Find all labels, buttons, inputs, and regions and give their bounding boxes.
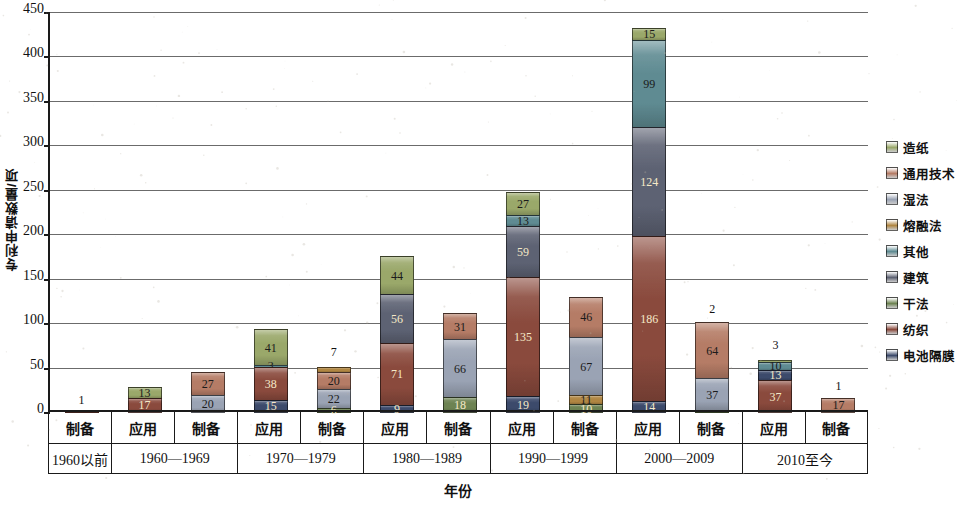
y-axis-tickmark bbox=[44, 279, 50, 281]
x-axis-subcategory-label: 制备 bbox=[300, 412, 363, 443]
bar-stack[interactable]: 159912418614 bbox=[632, 28, 666, 412]
chart-legend: 造纸通用技术湿法熔融法其他建筑干法纺织电池隔膜 bbox=[886, 134, 959, 368]
legend-item[interactable]: 电池隔膜 bbox=[886, 342, 959, 368]
segment-value-label: 186 bbox=[633, 313, 665, 325]
bar-segment[interactable]: 124 bbox=[632, 127, 666, 237]
bar-stack[interactable]: 46671110 bbox=[569, 297, 603, 412]
x-axis-title: 年份 bbox=[48, 480, 868, 500]
bar-top-label: 2 bbox=[685, 302, 739, 317]
bar-stack[interactable]: 31013373 bbox=[758, 360, 792, 412]
segment-value-label: 59 bbox=[507, 246, 539, 258]
bar-segment[interactable]: 135 bbox=[506, 277, 540, 397]
y-axis-tickmark bbox=[44, 323, 50, 325]
x-axis-subcategory-label: 制备 bbox=[553, 412, 616, 443]
bar-top-label: 1 bbox=[811, 379, 865, 394]
bar-segment[interactable]: 15 bbox=[632, 28, 666, 41]
bar-segment[interactable]: 37 bbox=[758, 380, 792, 413]
segment-value-label: 37 bbox=[759, 391, 791, 403]
bar-stack[interactable]: 4133815 bbox=[254, 329, 288, 412]
bar-segment[interactable]: 186 bbox=[632, 236, 666, 401]
x-axis-subcategory-label: 应用 bbox=[490, 412, 553, 443]
bar-stack[interactable]: 643722 bbox=[695, 322, 729, 412]
legend-item[interactable]: 干法 bbox=[886, 290, 959, 316]
segment-value-label: 31 bbox=[444, 321, 476, 333]
gridline bbox=[50, 190, 868, 191]
y-axis-tickmark bbox=[44, 12, 50, 14]
bar-stack[interactable]: 27135913519 bbox=[506, 192, 540, 412]
bar-segment[interactable]: 99 bbox=[632, 40, 666, 128]
legend-label: 湿法 bbox=[903, 190, 929, 209]
x-axis-group-label: 1960—1969 bbox=[111, 443, 237, 474]
bar-segment[interactable]: 44 bbox=[380, 256, 414, 295]
y-axis-tick-label: 400 bbox=[4, 48, 44, 58]
legend-swatch-icon bbox=[886, 141, 898, 153]
legend-item[interactable]: 其他 bbox=[886, 238, 959, 264]
legend-swatch-icon bbox=[886, 167, 898, 179]
bar-segment[interactable]: 27 bbox=[506, 192, 540, 216]
bar-segment[interactable]: 37 bbox=[695, 378, 729, 411]
bar-segment[interactable]: 27 bbox=[191, 372, 225, 396]
bar-segment[interactable]: 56 bbox=[380, 294, 414, 344]
x-axis-subcategory-label: 应用 bbox=[742, 412, 805, 443]
legend-item[interactable]: 通用技术 bbox=[886, 160, 959, 186]
legend-item[interactable]: 纺织 bbox=[886, 316, 959, 342]
x-axis-subcategory-label: 制备 bbox=[174, 412, 237, 443]
legend-swatch-icon bbox=[886, 323, 898, 335]
legend-label: 熔融法 bbox=[903, 216, 942, 235]
bar-stack[interactable]: 2720 bbox=[191, 372, 225, 412]
bar-top-label: 1 bbox=[55, 393, 109, 408]
bar-segment[interactable]: 66 bbox=[443, 339, 477, 398]
bar-segment[interactable]: 64 bbox=[695, 322, 729, 379]
gridline bbox=[50, 12, 868, 13]
x-axis-group-label: 2000—2009 bbox=[616, 443, 742, 474]
legend-item[interactable]: 熔融法 bbox=[886, 212, 959, 238]
x-axis-subcategory-label: 制备 bbox=[805, 412, 868, 443]
legend-item[interactable]: 湿法 bbox=[886, 186, 959, 212]
bar-segment[interactable]: 31 bbox=[443, 313, 477, 341]
x-axis-subcategory-label: 制备 bbox=[679, 412, 742, 443]
bar-segment[interactable]: 59 bbox=[506, 226, 540, 278]
x-axis-subcategory-label: 应用 bbox=[237, 412, 300, 443]
bar-segment[interactable]: 20 bbox=[317, 372, 351, 390]
bar-top-label: 7 bbox=[307, 345, 361, 360]
bar-stack[interactable]: 4456719 bbox=[380, 256, 414, 412]
y-axis-tick-label: 100 bbox=[4, 315, 44, 325]
bar-segment[interactable]: 67 bbox=[569, 337, 603, 397]
gridline bbox=[50, 234, 868, 235]
x-axis-group-label: 1970—1979 bbox=[237, 443, 363, 474]
legend-item[interactable]: 建筑 bbox=[886, 264, 959, 290]
x-axis-subcategory-label: 应用 bbox=[616, 412, 679, 443]
x-axis-subcategory-label: 制备 bbox=[426, 412, 489, 443]
legend-swatch-icon bbox=[886, 297, 898, 309]
segment-value-label: 71 bbox=[381, 368, 413, 380]
x-axis-group-label: 1990—1999 bbox=[490, 443, 616, 474]
gridline bbox=[50, 56, 868, 57]
y-axis-tick-label: 300 bbox=[4, 137, 44, 147]
y-axis-tickmark bbox=[44, 56, 50, 58]
segment-value-label: 67 bbox=[570, 361, 602, 373]
bar-segment[interactable]: 71 bbox=[380, 343, 414, 406]
x-axis-subcategory-label: 应用 bbox=[111, 412, 174, 443]
bar-stack[interactable]: 316618 bbox=[443, 313, 477, 412]
segment-value-label: 20 bbox=[318, 375, 350, 387]
segment-value-label: 37 bbox=[696, 389, 728, 401]
legend-label: 电池隔膜 bbox=[903, 346, 955, 365]
segment-value-label: 135 bbox=[507, 331, 539, 343]
legend-label: 造纸 bbox=[903, 138, 929, 157]
segment-value-label: 41 bbox=[255, 342, 287, 354]
y-axis-tick-label: 250 bbox=[4, 182, 44, 192]
bar-segment[interactable]: 46 bbox=[569, 297, 603, 338]
bar-stack[interactable]: 7202267 bbox=[317, 367, 351, 412]
y-axis-tick-label: 450 bbox=[4, 4, 44, 14]
bar-segment[interactable]: 38 bbox=[254, 367, 288, 401]
plot-inner: 1113172720413381572022674456719316618271… bbox=[50, 12, 868, 412]
segment-value-label: 99 bbox=[633, 78, 665, 90]
bar-stack[interactable]: 1317 bbox=[128, 387, 162, 412]
plot-area: 1113172720413381572022674456719316618271… bbox=[48, 12, 868, 412]
y-axis-tick-labels: 450400350300250200150100500 bbox=[0, 0, 44, 420]
y-axis-tickmark bbox=[44, 190, 50, 192]
gridline bbox=[50, 279, 868, 280]
legend-item[interactable]: 造纸 bbox=[886, 134, 959, 160]
legend-label: 干法 bbox=[903, 294, 929, 313]
x-axis-subcategory-label: 制备 bbox=[48, 412, 111, 443]
